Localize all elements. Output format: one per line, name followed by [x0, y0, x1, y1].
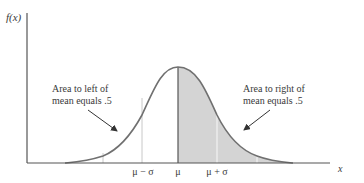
x-axis-label: x	[337, 163, 343, 174]
tick-label-mu-minus-sigma: μ − σ	[132, 166, 154, 177]
left-note-line2: mean equals .5	[52, 95, 112, 106]
shaded-right-area	[178, 67, 293, 163]
right-note-line1: Area to right of	[243, 83, 306, 94]
left-note-line1: Area to left of	[52, 83, 109, 94]
normal-distribution-figure: f(x) x μ − σ μ μ + σ Area to left of mea…	[0, 0, 364, 183]
normal-curve-plot: f(x) x μ − σ μ μ + σ Area to left of mea…	[0, 0, 364, 183]
right-annotation-arrow	[244, 110, 270, 130]
tick-label-mu-plus-sigma: μ + σ	[206, 166, 228, 177]
tick-label-mu: μ	[175, 166, 180, 177]
y-axis-label: f(x)	[6, 11, 22, 24]
left-annotation-arrow	[88, 110, 117, 131]
right-note-line2: mean equals .5	[243, 95, 303, 106]
